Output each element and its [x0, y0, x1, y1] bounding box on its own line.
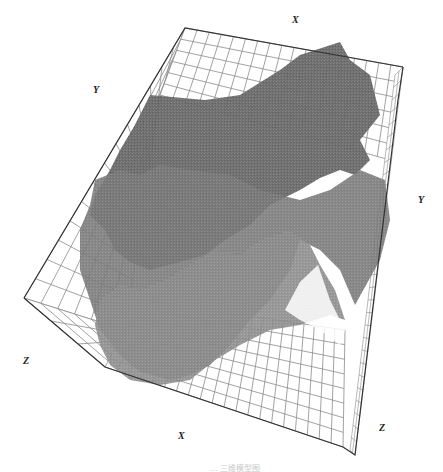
axis-label-y-left: Y: [93, 84, 99, 95]
3d-model-figure: X Y Y Z X Z … 三维模型图: [0, 0, 443, 472]
wireframe-plot: [0, 0, 443, 472]
axis-label-y-right: Y: [418, 194, 424, 205]
axis-label-z-right: Z: [379, 422, 385, 433]
axis-label-x-top: X: [292, 14, 299, 25]
figure-caption: … 三维模型图: [150, 462, 320, 472]
axis-label-x-bottom: X: [178, 430, 185, 441]
axis-label-z-left: Z: [23, 355, 29, 366]
